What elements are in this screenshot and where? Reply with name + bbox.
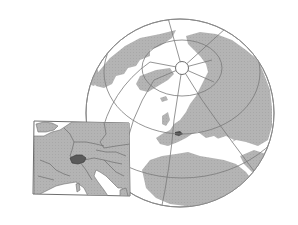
map-canvas: [0, 0, 298, 225]
locator-map: [0, 0, 298, 225]
north-pole-marker: [176, 62, 189, 75]
inset-corsica: [76, 183, 80, 192]
inset-map: [33, 121, 130, 196]
